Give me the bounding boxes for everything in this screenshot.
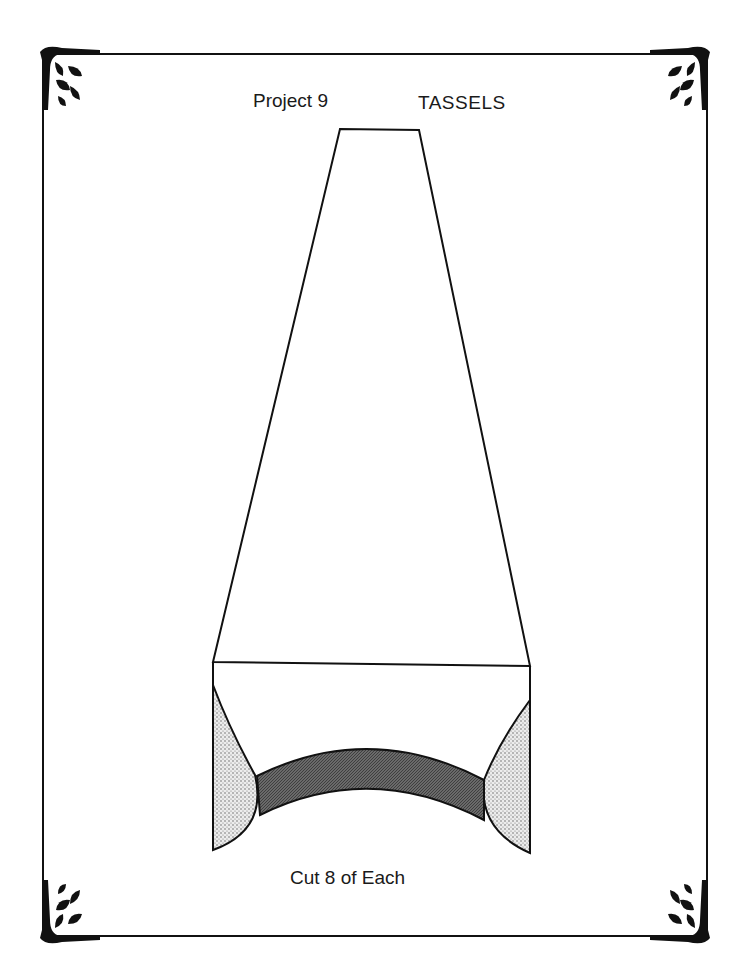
project-label: Project 9 (253, 90, 328, 112)
pattern-illustration (0, 0, 752, 976)
tassel-right-side (483, 700, 530, 853)
corner-ornament-top-left-icon (40, 47, 100, 110)
corner-ornament-bottom-right-icon (650, 880, 710, 943)
corner-ornament-top-right-icon (650, 47, 710, 110)
tassel-left-side (213, 685, 257, 850)
cut-instruction: Cut 8 of Each (290, 867, 405, 889)
corner-ornament-bottom-left-icon (40, 880, 100, 943)
tassel-bottom-band (257, 749, 484, 820)
pattern-page: Project 9 TASSELS Cut 8 of Each (0, 0, 752, 976)
project-title: TASSELS (418, 92, 506, 114)
tassel-top-trapezoid (213, 129, 530, 666)
